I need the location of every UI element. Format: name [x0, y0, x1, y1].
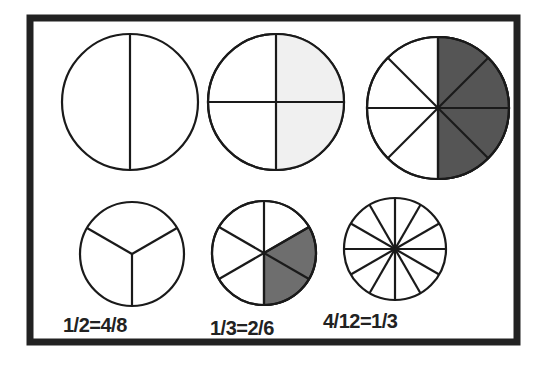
label-second-equation: 1/3=2/6 [210, 317, 274, 340]
circle-sixths [212, 201, 316, 305]
circle-thirds [80, 202, 184, 306]
label-third-equation: 4/12=1/3 [323, 310, 397, 333]
circle-halves [62, 34, 198, 170]
circle-twelfths [344, 198, 446, 300]
circle-eighths [367, 37, 509, 179]
fraction-diagram [0, 0, 547, 365]
circle-quarters [208, 34, 344, 170]
label-first-equation: 1/2=4/8 [63, 314, 127, 337]
